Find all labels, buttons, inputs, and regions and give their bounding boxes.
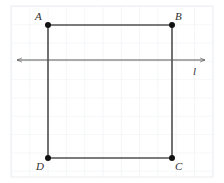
vertex-dot-a bbox=[45, 22, 51, 28]
vertex-dot-d bbox=[45, 155, 51, 161]
vertex-label-c: C bbox=[175, 161, 182, 172]
vertex-label-d: D bbox=[36, 161, 44, 172]
figure-canvas bbox=[0, 0, 224, 183]
geometry-figure: A B C D l bbox=[0, 0, 224, 183]
grid-background bbox=[11, 6, 213, 177]
vertex-label-a: A bbox=[35, 11, 42, 22]
line-label-l: l bbox=[193, 66, 196, 77]
vertex-label-b: B bbox=[175, 11, 182, 22]
vertex-dot-b bbox=[169, 22, 175, 28]
